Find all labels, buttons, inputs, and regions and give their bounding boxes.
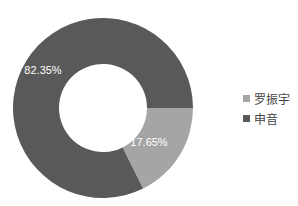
legend-swatch [243, 95, 250, 102]
legend-item-shenyin: 申音 [243, 108, 290, 128]
legend-swatch [243, 115, 250, 122]
legend: 罗振宇 申音 [243, 88, 290, 128]
legend-label: 罗振宇 [254, 90, 290, 107]
legend-item-luozhenyu: 罗振宇 [243, 88, 290, 108]
data-label: 82.35% [24, 64, 62, 76]
data-label: 17.65% [130, 136, 168, 148]
legend-label: 申音 [254, 110, 278, 127]
donut-chart: 17.65%82.35% [0, 0, 230, 206]
